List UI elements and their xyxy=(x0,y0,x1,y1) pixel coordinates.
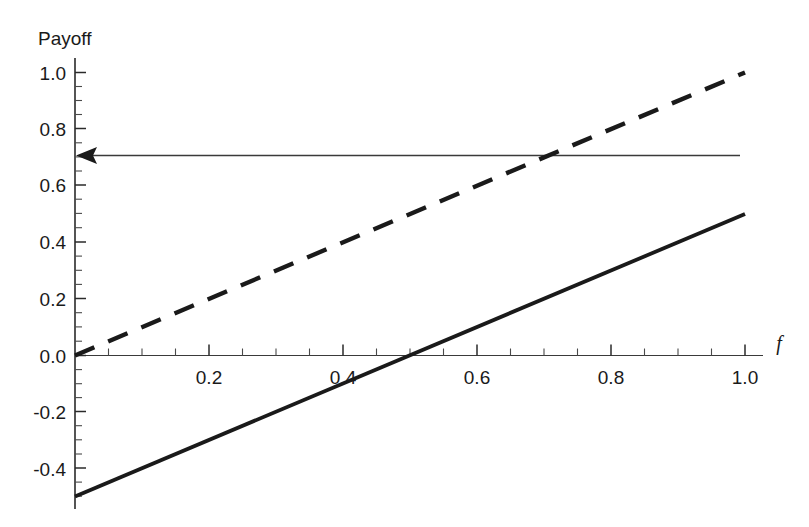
y-tick-label: 0.6 xyxy=(40,175,66,196)
y-axis-minor-ticks xyxy=(75,87,82,497)
y-tick-label: -0.4 xyxy=(33,459,66,480)
x-tick-label: 0.6 xyxy=(464,367,490,388)
payoff-chart: 1.0 0.8 0.6 0.4 0.2 0.0 -0.2 -0.4 0.2 0.… xyxy=(0,0,809,527)
x-axis-major-ticks xyxy=(209,345,745,356)
threshold-line-series xyxy=(76,147,740,164)
x-tick-label: 0.2 xyxy=(196,367,222,388)
x-tick-label: 0.8 xyxy=(598,367,624,388)
x-tick-label: 0.4 xyxy=(330,367,357,388)
y-tick-label: 0.4 xyxy=(40,232,67,253)
y-tick-label: -0.2 xyxy=(33,402,66,423)
y-tick-label: 1.0 xyxy=(40,63,66,84)
dashed-payoff-line xyxy=(75,73,745,356)
y-tick-label: 0.0 xyxy=(40,346,66,367)
chart-canvas: 1.0 0.8 0.6 0.4 0.2 0.0 -0.2 -0.4 0.2 0.… xyxy=(0,0,809,527)
y-axis-title: Payoff xyxy=(38,28,92,49)
x-axis-title: f xyxy=(776,332,784,355)
y-tick-label: 0.2 xyxy=(40,289,66,310)
x-tick-label: 1.0 xyxy=(732,367,758,388)
y-tick-label: 0.8 xyxy=(40,119,66,140)
